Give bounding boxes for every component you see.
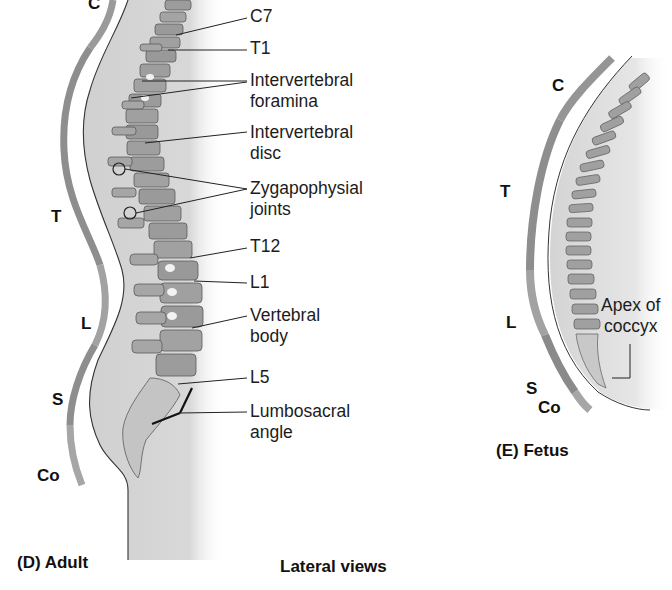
fetus-region-l: L <box>506 313 516 333</box>
adult-region-s: S <box>52 390 63 410</box>
adult-region-t: T <box>51 207 61 227</box>
spine-lateral-views-figure: C T L S Co C7 T1 Intervertebral foramina… <box>0 0 672 590</box>
adult-region-l: L <box>81 314 91 334</box>
caption-fetus: (E) Fetus <box>496 441 569 461</box>
label-l1: L1 <box>250 272 269 293</box>
label-lumbosacral-angle: Lumbosacral angle <box>250 401 350 443</box>
fetus-region-co: Co <box>538 398 561 418</box>
fetus-region-s: S <box>526 379 537 399</box>
label-vertebral-body: Vertebral body <box>250 305 320 347</box>
fetus-region-c: C <box>552 76 564 96</box>
label-apex-of-coccyx: Apex of coccyx <box>601 295 660 337</box>
label-intervertebral-disc: Intervertebral disc <box>250 122 353 164</box>
fetus-region-t: T <box>500 182 510 202</box>
label-l5: L5 <box>250 367 269 388</box>
caption-lateral-views: Lateral views <box>280 557 387 577</box>
label-c7: C7 <box>250 6 272 27</box>
caption-adult: (D) Adult <box>17 553 88 573</box>
label-zygapophysial-joints: Zygapophysial joints <box>250 178 363 220</box>
adult-region-co: Co <box>37 466 60 486</box>
adult-region-c: C <box>88 0 100 14</box>
label-t1: T1 <box>250 38 270 59</box>
label-intervertebral-foramina: Intervertebral foramina <box>250 70 353 112</box>
label-t12: T12 <box>250 236 280 257</box>
